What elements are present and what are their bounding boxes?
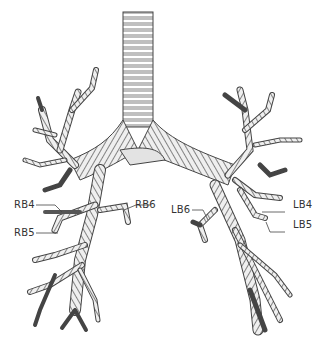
right-lower-branches: [30, 170, 128, 330]
label-lb6: LB6: [171, 205, 190, 215]
bronchial-tree-illustration: [0, 0, 321, 345]
label-rb6: RB6: [135, 200, 156, 210]
label-lb4: LB4: [293, 200, 312, 210]
label-leader-lines: [36, 205, 285, 233]
left-lower-branches: [193, 185, 290, 330]
label-rb5: RB5: [14, 228, 35, 238]
label-lb5: LB5: [293, 220, 312, 230]
label-rb4: RB4: [14, 200, 35, 210]
left-upper-branches: [225, 90, 300, 218]
trachea: [123, 12, 153, 127]
